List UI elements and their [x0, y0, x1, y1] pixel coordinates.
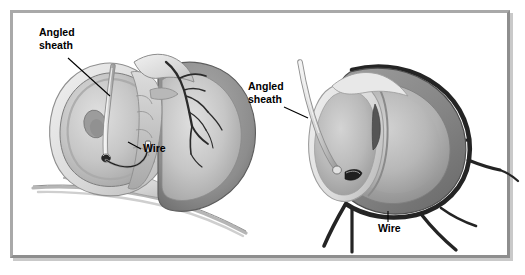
right-wire-label-text: Wire	[378, 222, 401, 234]
right-angled-sheath-leader	[284, 107, 308, 118]
left-heart-illustration: Angled sheath Wire	[33, 26, 255, 236]
illustration-canvas: Angled sheath Wire	[0, 0, 525, 275]
right-angled-sheath-line2: sheath	[248, 93, 282, 105]
left-angled-sheath-line2: sheath	[39, 39, 73, 51]
right-heart-illustration: Angled sheath Wire	[248, 62, 518, 252]
right-sheath-tip-bulb	[333, 166, 342, 174]
left-angled-sheath-line1: Angled	[39, 26, 75, 38]
left-wire-label-text: Wire	[143, 142, 166, 154]
right-angled-sheath-callout: Angled sheath	[248, 80, 308, 118]
right-angled-sheath-line1: Angled	[248, 80, 284, 92]
medical-illustration-figure: Angled sheath Wire	[0, 0, 525, 275]
